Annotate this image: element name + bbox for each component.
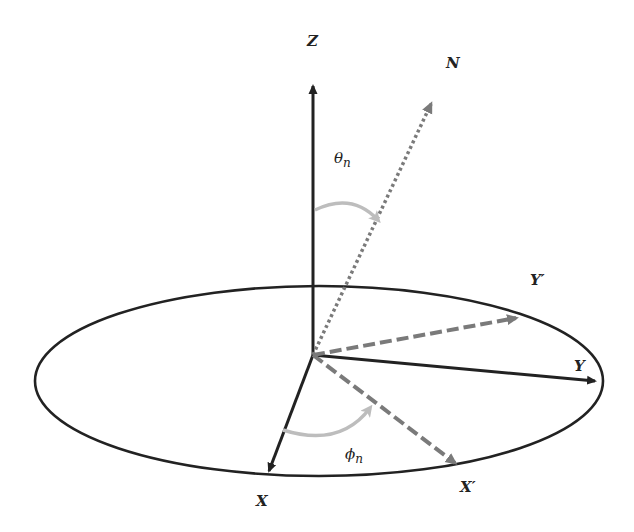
phi-angle-arc	[283, 408, 370, 436]
x-prime-axis-label: X′	[459, 478, 476, 496]
x-axis	[269, 355, 313, 471]
y-prime-axis	[313, 318, 516, 355]
xy-plane-ellipse	[35, 286, 603, 476]
y-axis	[313, 355, 595, 381]
phi-subscript: n	[355, 452, 363, 466]
coordinate-rotation-diagram: Z N Y′ Y X X′ θn ϕn	[0, 0, 634, 532]
z-axis-label: Z	[306, 32, 319, 50]
x-prime-axis	[313, 355, 455, 463]
theta-n-label: θn	[334, 149, 351, 170]
phi-symbol: ϕ	[345, 445, 355, 463]
theta-symbol: θ	[334, 149, 343, 167]
n-vector	[313, 104, 431, 355]
theta-angle-arc	[315, 203, 378, 220]
n-vector-label: N	[445, 54, 461, 72]
x-axis-label: X	[255, 492, 269, 510]
y-prime-axis-label: Y′	[530, 271, 545, 289]
y-axis-label: Y	[574, 357, 586, 375]
phi-n-label: ϕn	[345, 445, 363, 466]
theta-subscript: n	[343, 156, 351, 170]
